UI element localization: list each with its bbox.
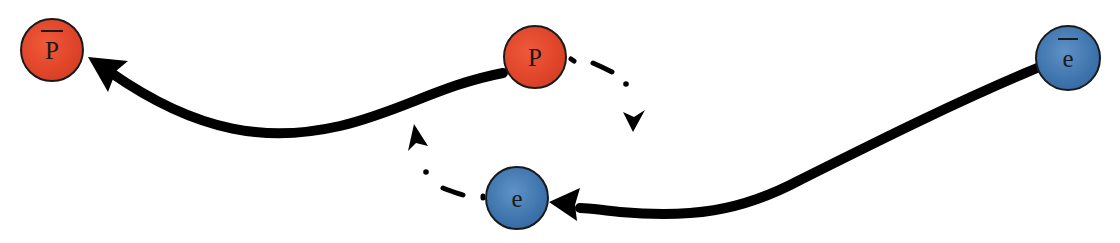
proton-particle: P [503, 25, 567, 89]
dashed-arrow-proton-down [571, 59, 645, 132]
arrow-positron-to-electron [549, 66, 1042, 221]
proton-label: P [528, 45, 542, 70]
arrowhead-icon [408, 124, 428, 151]
positron-particle: e [1035, 25, 1101, 91]
positron-symbol: e [1062, 45, 1073, 72]
antiproton-label: P [45, 38, 59, 63]
antiproton-symbol: P [45, 37, 59, 64]
overline-icon [41, 30, 63, 33]
arrowhead-icon [623, 110, 645, 132]
dashed-arrow-electron-up [408, 124, 483, 198]
arrow-proton-to-antiproton [88, 57, 503, 133]
electron-particle: e [485, 166, 549, 230]
antiproton-particle: P [20, 18, 84, 82]
positron-label: e [1062, 46, 1073, 71]
arrowhead-icon [549, 188, 580, 221]
electron-label: e [511, 186, 522, 211]
overline-icon [1058, 38, 1078, 41]
